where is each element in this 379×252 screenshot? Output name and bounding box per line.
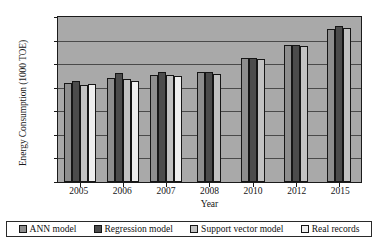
bar xyxy=(174,76,182,182)
bar-group xyxy=(145,17,188,182)
bar xyxy=(327,29,335,182)
x-tick-label: 2006 xyxy=(101,186,145,196)
chart-legend: ANN modelRegression modelSupport vector … xyxy=(6,221,372,237)
x-tick-label: 2015 xyxy=(318,186,362,196)
bar xyxy=(300,46,308,182)
legend-label: Support vector model xyxy=(201,224,283,234)
bar xyxy=(64,83,72,182)
legend-item[interactable]: Real records xyxy=(301,224,360,234)
bar xyxy=(343,28,351,182)
bar xyxy=(123,79,131,182)
bar xyxy=(107,78,115,182)
bar xyxy=(257,59,265,183)
bar-group xyxy=(58,17,101,182)
bar xyxy=(213,74,221,182)
y-axis-title: Energy Consumption (1000 TOE) xyxy=(18,18,28,188)
bar xyxy=(80,85,88,182)
x-tick-label: 2010 xyxy=(231,186,275,196)
legend-item[interactable]: Support vector model xyxy=(190,224,283,234)
bar-group xyxy=(274,17,317,182)
x-tick-label: 2005 xyxy=(57,186,101,196)
plot-area xyxy=(57,16,362,183)
x-tick-label: 2007 xyxy=(144,186,188,196)
bar xyxy=(166,75,174,182)
bar xyxy=(150,75,158,182)
bar-group xyxy=(318,17,361,182)
legend-swatch-icon xyxy=(301,225,309,233)
bar xyxy=(115,73,123,182)
legend-label: ANN model xyxy=(30,224,77,234)
chart-figure: Energy Consumption (1000 TOE) 0500010000… xyxy=(0,0,379,252)
legend-swatch-icon xyxy=(19,225,27,233)
legend-label: Regression model xyxy=(105,224,173,234)
x-axis-title: Year xyxy=(57,199,362,209)
bar-groups xyxy=(58,17,361,182)
legend-item[interactable]: Regression model xyxy=(94,224,173,234)
bar-group xyxy=(188,17,231,182)
legend-swatch-icon xyxy=(190,225,198,233)
bar xyxy=(205,72,213,182)
bar xyxy=(131,81,139,182)
bar xyxy=(241,58,249,182)
x-tick-label: 2008 xyxy=(188,186,232,196)
bar-group xyxy=(101,17,144,182)
bar xyxy=(284,45,292,182)
legend-label: Real records xyxy=(312,224,360,234)
bar xyxy=(88,84,96,182)
legend-swatch-icon xyxy=(94,225,102,233)
legend-item[interactable]: ANN model xyxy=(19,224,77,234)
bar xyxy=(292,45,300,182)
x-axis-labels: 2005200620072008201020122015 xyxy=(57,186,362,196)
bar xyxy=(335,26,343,182)
x-tick-label: 2012 xyxy=(275,186,319,196)
bar xyxy=(72,81,80,182)
bar-group xyxy=(231,17,274,182)
bar xyxy=(249,58,257,182)
y-tick-mark xyxy=(54,182,58,183)
bar xyxy=(158,72,166,182)
bar xyxy=(197,72,205,182)
